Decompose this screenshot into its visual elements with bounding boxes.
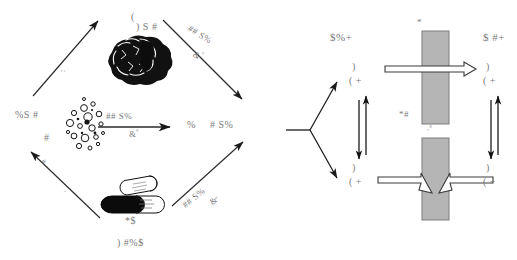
arrow-top-left-diagonal <box>33 21 98 96</box>
node-lower-right-line2: ( + <box>483 177 496 187</box>
fork-branch-up <box>310 82 337 130</box>
label-right-middle-2: # S% <box>210 120 233 130</box>
arrow-middle-label-above: ## S% <box>106 112 132 121</box>
membrane-bar-bottom <box>422 138 449 220</box>
figure-canvas <box>0 0 517 260</box>
blob-illustration <box>108 35 172 85</box>
node-upper-right-line2: ( + <box>483 76 496 86</box>
right-schematic-group <box>286 31 498 220</box>
node-upper-left-line2: ( + <box>349 76 362 86</box>
label-capsule-caption: *$ <box>125 216 136 226</box>
label-top-right-species: $ #+ <box>483 32 505 43</box>
node-upper-right-line1: ) <box>486 62 490 72</box>
arrow-middle-label-below-sup: ° <box>136 129 139 135</box>
label-star-top: * <box>417 18 422 27</box>
node-lower-left-line2: ( + <box>349 177 362 187</box>
particles-illustration <box>66 98 104 151</box>
label-bottom-caption: ) #%$ <box>117 238 144 248</box>
capsule-illustration <box>101 176 165 213</box>
node-lower-right-line1: ) <box>486 163 490 173</box>
label-left-middle: %S # <box>15 110 38 120</box>
arrow-bottom-right-diagonal <box>172 142 243 206</box>
node-upper-left-line1: ) <box>352 62 356 72</box>
label-star-hash: *# <box>399 110 409 119</box>
fork-branch-down <box>310 130 337 178</box>
label-right-middle: % <box>187 120 196 130</box>
node-lower-left-line1: ) <box>352 163 356 173</box>
label-tick-mid: ,° <box>427 125 433 132</box>
label-top-paren: ( <box>131 12 135 22</box>
label-left-middle-2: # <box>44 133 50 143</box>
membrane-bar-top <box>422 31 449 124</box>
label-top-caption: ) S # <box>136 22 157 32</box>
label-top-left-species: $%+ <box>330 32 352 43</box>
